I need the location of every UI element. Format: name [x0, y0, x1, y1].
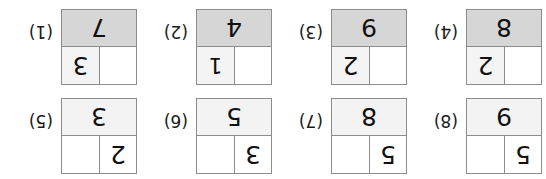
problem-box: 3 7	[61, 9, 137, 85]
addend-right-cell[interactable]: 3	[62, 47, 99, 84]
sum-digit: 3	[91, 105, 107, 130]
addend-right-cell[interactable]: 2	[332, 47, 369, 84]
worksheet-row-bottom: 2 8 (4) 2 9	[0, 1, 546, 90]
addend-left-digit: 5	[380, 142, 396, 167]
addend-right-cell[interactable]	[467, 136, 504, 173]
sum-digit: 5	[226, 105, 242, 130]
addend-left-digit: 3	[245, 142, 261, 167]
problem-box: 5 9	[466, 98, 542, 174]
sum-cell[interactable]: 3	[62, 99, 136, 135]
problem-box: 2 9	[331, 9, 407, 85]
addend-right-cell[interactable]	[332, 136, 369, 173]
problem-box: 1 4	[196, 9, 272, 85]
addends-row: 2	[332, 46, 406, 84]
problem-number: (3)	[277, 22, 323, 42]
problem-number: (1)	[7, 22, 53, 42]
sum-cell[interactable]: 8	[467, 10, 541, 46]
addends-row: 2	[62, 135, 136, 173]
addend-left-cell[interactable]: 5	[504, 136, 541, 173]
worksheet-figure: 5 9 (8) 5	[0, 0, 546, 179]
sum-digit: 9	[496, 105, 512, 130]
sum-cell[interactable]: 8	[332, 99, 406, 135]
addends-row: 3	[197, 135, 271, 173]
problem-box: 2 3	[61, 98, 137, 174]
sum-cell[interactable]: 5	[197, 99, 271, 135]
addend-left-cell[interactable]	[234, 47, 271, 84]
addend-left-cell[interactable]: 3	[234, 136, 271, 173]
sum-cell[interactable]: 9	[467, 99, 541, 135]
problem-number: (7)	[277, 111, 323, 131]
problem-item: 5 9 (8)	[411, 90, 546, 179]
problem-number: (2)	[142, 22, 188, 42]
problem-number: (5)	[7, 111, 53, 131]
addend-right-cell[interactable]: 1	[197, 47, 234, 84]
worksheet-row-top: 5 9 (8) 5	[0, 90, 546, 179]
problem-box: 2 8	[466, 9, 542, 85]
addends-row: 2	[467, 46, 541, 84]
problem-number: (8)	[412, 111, 458, 131]
addends-row: 5	[467, 135, 541, 173]
sum-digit: 8	[361, 105, 377, 130]
sum-digit: 4	[226, 16, 242, 41]
problem-item: 2 9 (3)	[276, 1, 411, 90]
sum-digit: 8	[496, 16, 512, 41]
addend-left-cell[interactable]	[99, 47, 136, 84]
addends-row: 1	[197, 46, 271, 84]
addend-left-digit: 5	[515, 142, 531, 167]
problem-box: 5 8	[331, 98, 407, 174]
addend-right-cell[interactable]	[197, 136, 234, 173]
addend-right-digit: 1	[209, 55, 223, 77]
problem-item: 3 5 (6)	[141, 90, 276, 179]
problem-item: 3 7 (1)	[6, 1, 141, 90]
sum-cell[interactable]: 7	[62, 10, 136, 46]
addend-right-digit: 3	[73, 53, 89, 78]
problem-number: (6)	[142, 111, 188, 131]
addend-left-cell[interactable]: 2	[99, 136, 136, 173]
problem-number: (4)	[412, 22, 458, 42]
addend-right-cell[interactable]	[62, 136, 99, 173]
problem-item: 2 8 (4)	[411, 1, 546, 90]
problem-item: 5 8 (7)	[276, 90, 411, 179]
sum-digit: 9	[361, 16, 377, 41]
addend-left-cell[interactable]	[369, 47, 406, 84]
problem-box: 3 5	[196, 98, 272, 174]
sum-cell[interactable]: 9	[332, 10, 406, 46]
problem-item: 1 4 (2)	[141, 1, 276, 90]
addends-row: 3	[62, 46, 136, 84]
problem-item: 2 3 (5)	[6, 90, 141, 179]
sum-cell[interactable]: 4	[197, 10, 271, 46]
addends-row: 5	[332, 135, 406, 173]
addend-left-cell[interactable]	[504, 47, 541, 84]
addend-right-digit: 2	[478, 53, 494, 78]
addend-right-cell[interactable]: 2	[467, 47, 504, 84]
addend-right-digit: 2	[343, 53, 359, 78]
addend-left-cell[interactable]: 5	[369, 136, 406, 173]
sum-digit: 7	[91, 16, 107, 41]
addend-left-digit: 2	[110, 142, 126, 167]
